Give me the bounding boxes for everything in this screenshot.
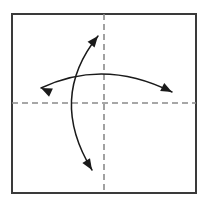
origami-fold-diagram	[0, 0, 209, 212]
figure-canvas	[0, 0, 209, 212]
